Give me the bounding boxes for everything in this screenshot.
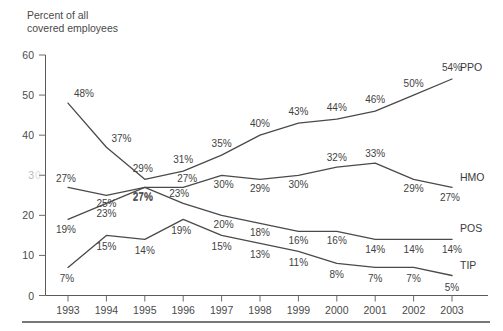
data-label-hmo: 27% — [440, 192, 460, 203]
series-label-tip: TIP — [460, 259, 476, 271]
data-label-hmo: 27% — [56, 173, 76, 184]
y-tick-label: 10 — [22, 249, 34, 261]
x-axis-tick-labels: 1993199419951996199719981999200020012002… — [56, 304, 464, 316]
x-tick-label: 1996 — [172, 304, 196, 316]
data-label-pos: 16% — [288, 235, 308, 246]
x-tick-label: 1993 — [56, 304, 80, 316]
data-label-pos: 18% — [250, 227, 270, 238]
data-label-pos: 14% — [365, 244, 385, 255]
data-label-ppo: 46% — [365, 94, 385, 105]
data-label-hmo: 27% — [177, 173, 197, 184]
y-tick-label: 0 — [28, 290, 34, 302]
series-label-pos: POS — [460, 222, 482, 234]
data-label-tip: 7% — [406, 273, 421, 284]
data-label-ppo: 35% — [212, 138, 232, 149]
data-label-ppo: 37% — [111, 133, 131, 144]
data-label-tip: 14% — [135, 245, 155, 256]
line-chart: Percent of all covered employees 0102030… — [0, 0, 503, 331]
data-label-pos: 27% — [133, 192, 153, 203]
y-axis-title-line2: covered employees — [27, 22, 118, 34]
x-tick-label: 2000 — [325, 304, 349, 316]
series-label-ppo: PPO — [460, 61, 482, 73]
data-label-hmo: 29% — [250, 183, 270, 194]
data-label-hmo: 32% — [327, 152, 347, 163]
x-tick-label: 1998 — [248, 304, 272, 316]
x-tick-label: 1999 — [287, 304, 311, 316]
x-tick-label: 2002 — [402, 304, 426, 316]
y-tick-label: 60 — [22, 49, 34, 61]
data-label-pos: 14% — [404, 244, 424, 255]
data-label-tip: 8% — [330, 269, 345, 280]
x-tick-label: 1997 — [210, 304, 234, 316]
data-label-tip: 11% — [289, 257, 308, 268]
data-label-tip: 15% — [212, 241, 232, 252]
data-label-hmo: 30% — [214, 179, 234, 190]
y-tick-label: 40 — [22, 129, 34, 141]
x-tick-label: 1994 — [95, 304, 119, 316]
data-label-pos: 14% — [442, 244, 462, 255]
data-label-ppo: 31% — [173, 154, 193, 165]
y-axis-title-line1: Percent of all — [27, 9, 88, 21]
data-label-ppo: 43% — [288, 106, 308, 117]
data-label-pos: 16% — [327, 235, 347, 246]
data-label-tip: 7% — [60, 273, 75, 284]
data-label-pos: 23% — [169, 188, 189, 199]
x-tick-label: 2001 — [364, 304, 388, 316]
data-label-ppo: 48% — [74, 88, 94, 99]
data-label-tip: 15% — [96, 241, 116, 252]
data-label-pos: 23% — [96, 208, 116, 219]
data-label-pos: 20% — [214, 219, 234, 230]
data-label-tip: 5% — [445, 282, 460, 293]
data-label-ppo: 44% — [327, 102, 347, 113]
x-tick-label: 1995 — [133, 304, 157, 316]
data-label-tip: 19% — [171, 225, 191, 236]
x-tick-label: 2003 — [440, 304, 464, 316]
data-label-hmo: 33% — [365, 148, 385, 159]
chart-background — [0, 0, 503, 331]
y-tick-label: 20 — [22, 209, 34, 221]
y-tick-label: 3 — [28, 169, 34, 181]
data-label-pos: 19% — [56, 224, 76, 235]
data-label-hmo: 30% — [288, 179, 308, 190]
y-tick-label-faded-zero: 0 — [35, 169, 41, 181]
series-label-hmo: HMO — [460, 171, 485, 183]
data-label-ppo: 40% — [250, 118, 270, 129]
data-label-ppo: 29% — [133, 163, 153, 174]
data-label-tip: 13% — [250, 249, 270, 260]
data-label-tip: 7% — [368, 273, 383, 284]
data-label-ppo: 50% — [404, 78, 424, 89]
y-tick-label: 50 — [22, 89, 34, 101]
data-label-hmo: 29% — [404, 183, 424, 194]
